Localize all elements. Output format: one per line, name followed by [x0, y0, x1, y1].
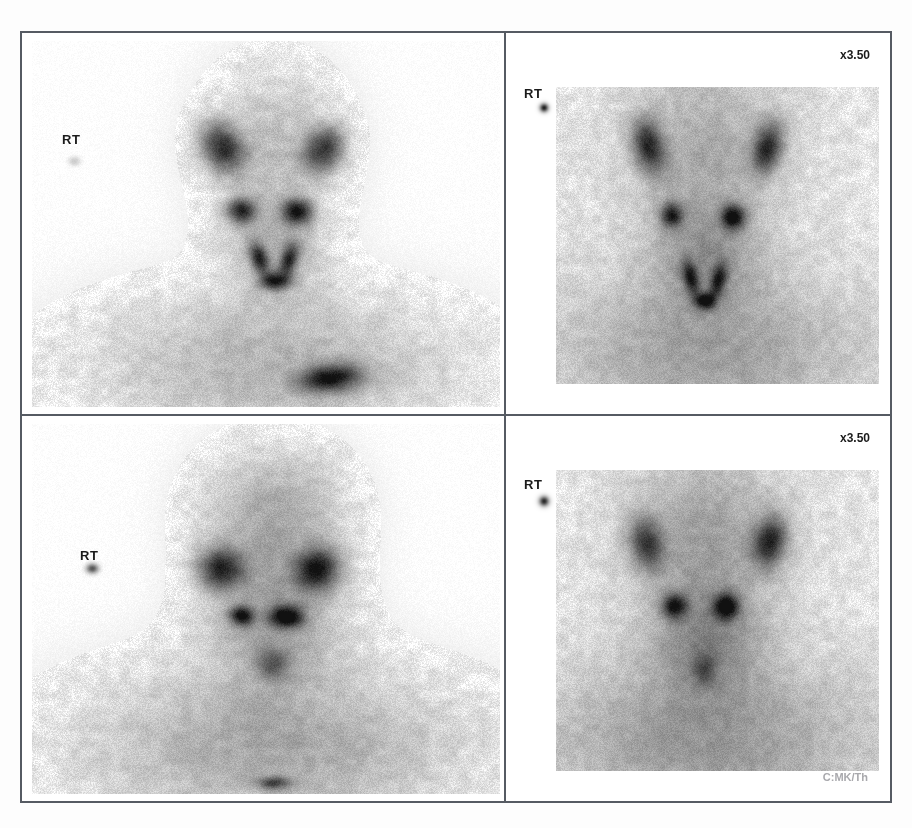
side-marker-label-bottom-left: RT — [80, 549, 98, 562]
screenshot-root: RT RT x3.50 RT RT x3.50 C:MK/Th — [0, 0, 912, 828]
zoom-factor-label-top-right: x3.50 — [840, 49, 870, 61]
scintigraphy-image-top-right — [506, 33, 890, 414]
scan-panel-bottom-left[interactable]: RT — [22, 416, 504, 801]
scan-panel-top-left[interactable]: RT — [22, 33, 504, 414]
scintigraphy-image-top-left — [22, 33, 504, 414]
image-frame: RT RT x3.50 RT RT x3.50 C:MK/Th — [20, 31, 892, 803]
scintigraphy-image-bottom-left — [22, 416, 504, 801]
scan-panel-top-right[interactable]: RT x3.50 — [506, 33, 890, 414]
zoom-factor-label-bottom-right: x3.50 — [840, 432, 870, 444]
side-marker-label-bottom-right: RT — [524, 478, 542, 491]
side-marker-label-top-right: RT — [524, 87, 542, 100]
side-marker-label-top-left: RT — [62, 133, 80, 146]
study-footer-label: C:MK/Th — [823, 772, 868, 783]
scan-panel-bottom-right[interactable]: RT x3.50 C:MK/Th — [506, 416, 890, 801]
scintigraphy-image-bottom-right — [506, 416, 890, 801]
